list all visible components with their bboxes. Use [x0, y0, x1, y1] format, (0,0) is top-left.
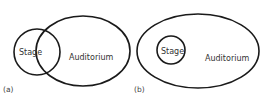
panel-b: Stage Auditorium (b) [134, 14, 259, 94]
panel-a: Stage Auditorium (a) [3, 16, 130, 94]
panel-a-label: (a) [3, 85, 14, 94]
panel-b-label: (b) [134, 85, 145, 94]
stage-label: Stage [19, 48, 42, 57]
auditorium-ellipse [36, 16, 130, 86]
venn-diagram-figure: Stage Auditorium (a) Stage Auditorium (b… [0, 0, 262, 102]
auditorium-label: Auditorium [69, 53, 113, 62]
stage-label: Stage [161, 47, 184, 56]
auditorium-label: Auditorium [205, 54, 249, 63]
auditorium-ellipse [137, 14, 259, 88]
